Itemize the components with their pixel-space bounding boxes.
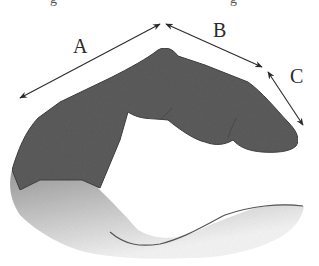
segment-c-label: C xyxy=(290,66,303,86)
segment-a-label: A xyxy=(73,36,87,56)
finger-segment-diagram: g g xyxy=(0,0,319,266)
segment-b-label: B xyxy=(213,20,226,40)
diagram-graphic xyxy=(0,0,319,266)
finger-shape xyxy=(12,48,298,190)
